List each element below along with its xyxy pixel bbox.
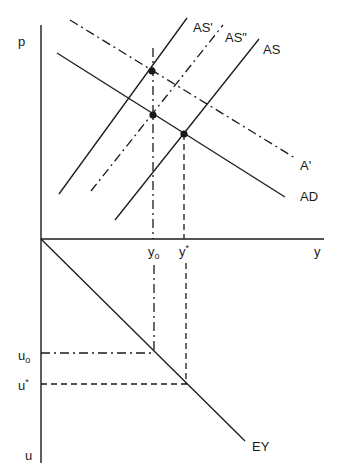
ey-curve [41,239,245,441]
ad-prime-label: A' [300,158,311,173]
as-prime-label: AS' [193,20,213,35]
y0-label: yo [148,244,160,261]
as-label: AS [263,42,281,57]
as-double-prime-label: AS" [225,30,247,45]
u0-label: uo [18,348,30,365]
ey-label: EY [252,439,270,454]
ad-curve [57,53,285,197]
price-axis-label: p [18,34,25,49]
ystar-label: y* [179,243,190,259]
equilibrium-dot-as-double-prime-ad [149,111,156,118]
equilibrium-dot-as-prime-ad-prime [148,67,155,74]
as-double-prime-curve [91,25,223,191]
output-axis-label: y [314,244,321,259]
ad-prime-curve [70,20,295,158]
ustar-label: u* [18,377,29,393]
unemployment-axis-label: u [25,448,32,463]
equilibrium-dot-as-ad [180,130,187,137]
as-prime-curve [59,18,187,194]
as-ad-ey-diagram: p y u AS' AS" AS A' AD yo y* EY uo u* [0,0,340,476]
ad-label: AD [300,189,318,204]
as-curve [115,39,259,220]
